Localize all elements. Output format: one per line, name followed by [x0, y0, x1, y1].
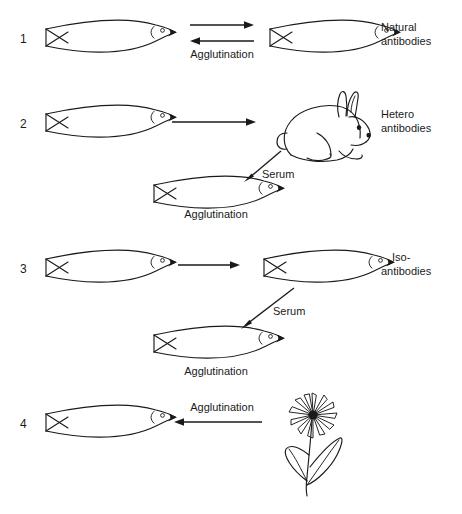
- outcome-label-3: Agglutination: [184, 365, 248, 377]
- result-label-2-line1: Hetero: [381, 108, 414, 120]
- row-4: 4 Agglutination: [20, 393, 342, 496]
- row-2: 2 Hetero antibodies Serum Aggl: [20, 92, 432, 220]
- row-1: 1 Agglutination Natural antibodies: [20, 20, 432, 60]
- fish-icon: [46, 20, 177, 52]
- fish-icon: [46, 250, 177, 282]
- fish-icon: [46, 405, 177, 437]
- row-number-1: 1: [20, 32, 27, 46]
- flower-icon: [285, 393, 342, 496]
- diagram-root: 1 Agglutination Natural antibodies 2: [0, 0, 462, 514]
- arrow-right-icon: [172, 118, 256, 126]
- row-3: 3 Iso- antibodies Serum Agglut: [20, 250, 432, 377]
- result-label-2-line2: antibodies: [381, 122, 432, 134]
- row-number-4: 4: [20, 417, 27, 431]
- arrow-left-icon: [174, 418, 262, 426]
- result-label-1-line1: Natural: [381, 21, 416, 33]
- arrow-right-icon: [190, 21, 254, 29]
- arrow-left-icon: [190, 37, 254, 45]
- fish-icon: [46, 105, 177, 137]
- arrow-label-4: Agglutination: [190, 401, 254, 413]
- arrow-label-1: Agglutination: [190, 48, 254, 60]
- serum-label-3: Serum: [273, 305, 305, 317]
- outcome-label-2: Agglutination: [184, 208, 248, 220]
- row-number-2: 2: [20, 117, 27, 131]
- rabbit-icon: [277, 92, 371, 162]
- fish-icon: [154, 176, 285, 208]
- row-number-3: 3: [20, 262, 27, 276]
- serum-label-2: Serum: [262, 168, 294, 180]
- diagram-canvas: 1 Agglutination Natural antibodies 2: [0, 0, 462, 514]
- result-label-3-line2: antibodies: [381, 265, 432, 277]
- fish-icon: [264, 250, 395, 282]
- result-label-3-line1: Iso-: [392, 251, 411, 263]
- arrow-right-icon: [178, 261, 240, 269]
- fish-icon: [154, 326, 285, 358]
- result-label-1-line2: antibodies: [381, 35, 432, 47]
